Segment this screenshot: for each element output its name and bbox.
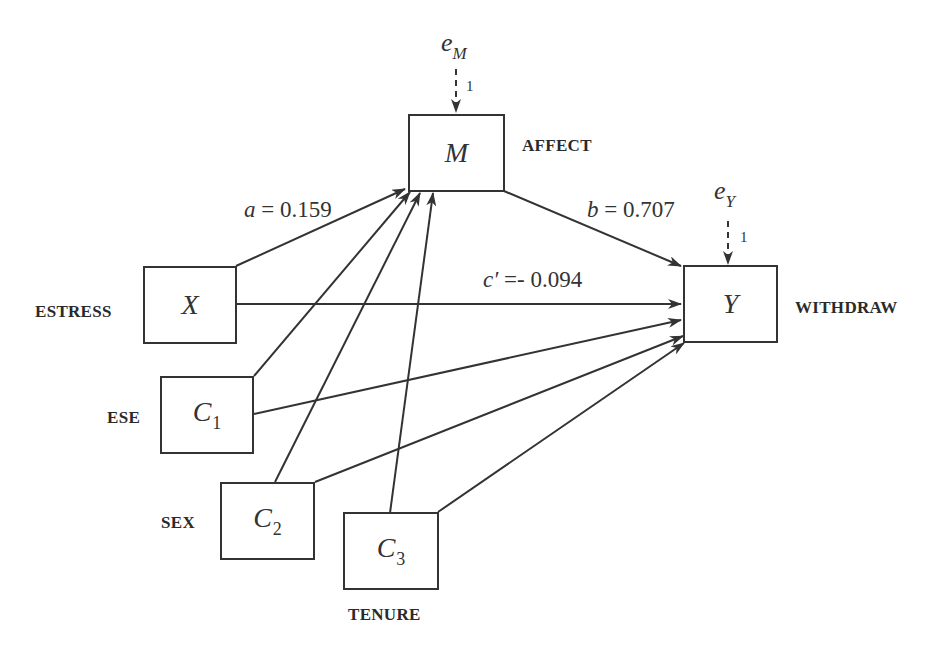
error-y-label: eY — [714, 176, 735, 212]
path-b-label: b = 0.707 — [587, 197, 675, 223]
node-c2-name: SEX — [161, 513, 195, 533]
error-m-weight: 1 — [466, 78, 474, 95]
path-c1-y-arrow — [254, 320, 681, 414]
path-c2-m-arrow — [275, 193, 420, 482]
path-c-prime-label: c′ =- 0.094 — [483, 267, 582, 293]
node-c1-symbol: C1 — [193, 396, 222, 434]
error-y-weight: 1 — [740, 229, 748, 246]
node-y-name: WITHDRAW — [795, 298, 898, 318]
path-arrows — [0, 0, 942, 652]
node-c3-symbol: C3 — [377, 532, 406, 570]
node-c2-symbol: C2 — [253, 502, 282, 540]
node-c1-name: ESE — [107, 408, 140, 428]
node-x-box: X — [143, 266, 237, 344]
node-x-name: ESTRESS — [35, 302, 112, 322]
node-y-symbol: Y — [723, 288, 739, 320]
node-m-name: AFFECT — [522, 136, 592, 156]
node-m-box: M — [408, 114, 505, 192]
node-c2-box: C2 — [220, 482, 315, 560]
path-c3-y-arrow — [438, 343, 684, 512]
node-c3-name: TENURE — [348, 605, 421, 625]
node-x-symbol: X — [181, 289, 198, 321]
node-c3-box: C3 — [343, 512, 439, 590]
node-c1-box: C1 — [160, 376, 254, 454]
node-m-symbol: M — [445, 137, 468, 169]
path-c2-y-arrow — [315, 336, 683, 482]
path-a-label: a = 0.159 — [244, 197, 332, 223]
node-y-box: Y — [683, 265, 778, 343]
error-m-label: eM — [441, 28, 467, 64]
